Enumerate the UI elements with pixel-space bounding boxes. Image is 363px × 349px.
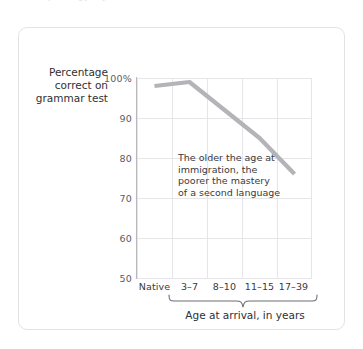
y-tick-label: 70 <box>84 193 132 204</box>
x-tick-label: 3–7 <box>172 281 207 292</box>
x-tick-label: 17–39 <box>276 281 311 292</box>
x-tick-label: 8–10 <box>207 281 242 292</box>
y-tick-label: 60 <box>84 233 132 244</box>
y-tick-label: 90 <box>84 113 132 124</box>
y-axis-tick-labels: 100% 90 80 70 60 50 <box>82 0 132 349</box>
y-tick-label: 50 <box>84 273 132 284</box>
gridline-horizontal <box>137 278 312 279</box>
line-chart: Percentage correct on grammar test 100% … <box>0 0 363 349</box>
y-tick-label: 100% <box>84 73 132 84</box>
x-tick-label: 11–15 <box>242 281 277 292</box>
group-brace-icon <box>168 294 318 310</box>
x-axis-title: Age at arrival, in years <box>155 309 335 321</box>
chart-annotation: The older the age at immigration, the po… <box>178 152 282 198</box>
y-tick-label: 80 <box>84 153 132 164</box>
x-tick-label: Native <box>137 281 172 292</box>
